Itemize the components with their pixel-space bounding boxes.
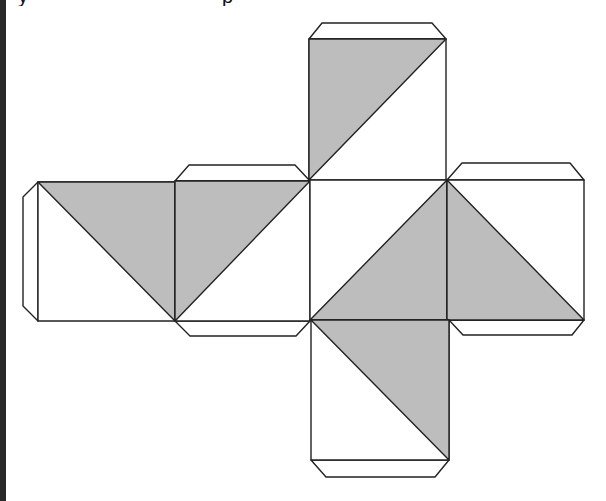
flap-bottom xyxy=(311,460,449,477)
flap-right-top xyxy=(447,163,584,180)
flap-top xyxy=(309,23,446,39)
flap-center-left-bottom xyxy=(175,321,310,336)
cube-net-diagram xyxy=(0,0,606,501)
flap-center-left-top xyxy=(175,165,310,181)
flap-left xyxy=(23,182,38,321)
flap-right-bottom xyxy=(449,320,584,335)
